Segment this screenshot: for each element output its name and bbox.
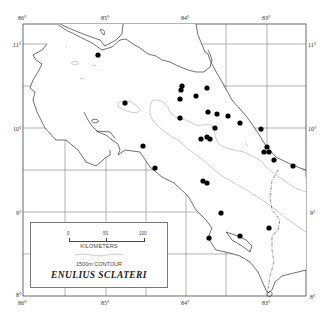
locality-dot: [204, 180, 209, 185]
locality-dot: [237, 233, 242, 238]
locality-dot: [140, 143, 145, 148]
locality-dot: [218, 210, 223, 215]
locality-dot: [204, 85, 209, 90]
lon-label-85-bottom: 85°: [101, 300, 110, 306]
scale-tick-50: 50: [103, 231, 108, 236]
latitude-labels-right: 11° 10° 9° 8°: [308, 42, 317, 300]
locality-dot: [261, 149, 266, 154]
locality-dot: [207, 136, 212, 141]
lat-label-11-left: 11°: [13, 42, 22, 48]
lat-label-11-right: 11°: [308, 42, 317, 48]
locality-dot: [225, 113, 230, 118]
locality-dot: [266, 225, 271, 230]
scale-tick-0: 0: [67, 231, 70, 236]
locality-dot: [271, 157, 276, 162]
longitude-labels-bottom: 86° 85° 84° 83°: [18, 300, 271, 306]
scale-bar-midtick: [106, 238, 107, 241]
scale-bar: [69, 238, 145, 242]
lat-label-8-right: 8°: [310, 294, 316, 300]
lon-label-83-top: 83°: [262, 15, 271, 21]
lon-label-84-top: 84°: [181, 15, 190, 21]
lon-label-84-bottom: 84°: [181, 300, 190, 306]
lon-label-85-top: 85°: [101, 15, 110, 21]
locality-dot: [237, 120, 242, 125]
legend-box: 0 50 100 KILOMETERS 1500m CONTOUR ENULIU…: [30, 222, 168, 288]
locality-dot: [198, 136, 203, 141]
lat-label-9-left: 9°: [16, 210, 22, 216]
scale-tick-100: 100: [139, 231, 147, 236]
locality-dot: [206, 235, 211, 240]
locality-dot: [177, 96, 182, 101]
lat-label-10-left: 10°: [13, 126, 22, 132]
locality-dot: [290, 163, 295, 168]
longitude-labels-top: 86° 85° 84° 83°: [18, 15, 271, 21]
lon-label-86-bottom: 86°: [18, 300, 27, 306]
lon-label-83-bottom: 83°: [262, 300, 271, 306]
contour-legend-line: [75, 252, 123, 258]
locality-dot: [258, 126, 263, 131]
species-title: ENULIUS SCLATERI: [31, 270, 167, 280]
latitude-labels-left: 11° 10° 9° 8°: [13, 42, 22, 298]
locality-dot: [122, 100, 127, 105]
locality-dot: [152, 165, 157, 170]
lat-label-8-left: 8°: [16, 292, 22, 298]
locality-dot: [266, 149, 271, 154]
locality-dot: [177, 115, 182, 120]
lat-label-10-right: 10°: [308, 126, 317, 132]
contour-legend-label: 1500m CONTOUR: [31, 261, 167, 267]
locality-dot: [214, 111, 219, 116]
locality-dot: [205, 109, 210, 114]
scale-unit-label: KILOMETERS: [31, 243, 167, 249]
lat-label-9-right: 9°: [310, 210, 316, 216]
locality-dot: [193, 93, 198, 98]
locality-dot: [264, 144, 269, 149]
lon-label-86-top: 86°: [18, 15, 27, 21]
locality-dot: [178, 87, 183, 92]
locality-dot: [212, 125, 217, 130]
locality-dot: [95, 52, 100, 57]
